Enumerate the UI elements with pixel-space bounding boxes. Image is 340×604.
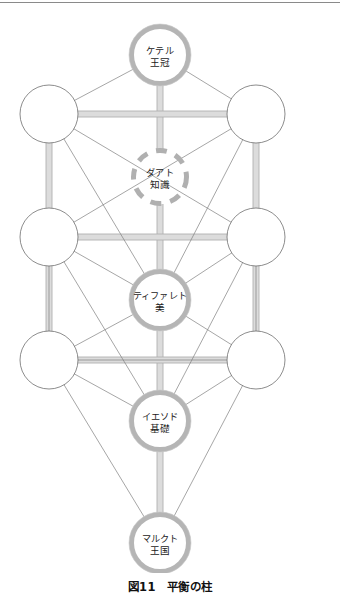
- thin-edge: [74, 69, 134, 101]
- sephirah-label-keter-name: ケテル: [146, 45, 174, 56]
- sephirah-label-malkuth-name: マルクト: [142, 533, 179, 544]
- thin-edge: [185, 375, 232, 405]
- sephirah-label-keter-meaning: 王冠: [150, 57, 170, 68]
- sephirah-label-tiphareth-name: ティファレト: [133, 290, 187, 301]
- page-top-rule: [0, 2, 340, 3]
- thin-edge: [186, 71, 233, 100]
- sephirah-node-geburah[interactable]: [227, 208, 285, 266]
- sephirah-node-netzach[interactable]: [20, 331, 78, 389]
- sephirah-node-chesed[interactable]: [20, 208, 78, 266]
- pillar-edge: [76, 111, 229, 117]
- sephirah-label-tiphareth-meaning: 美: [155, 302, 165, 313]
- sephirah-label-daath-name: ダアト: [146, 167, 174, 178]
- thin-edge: [185, 252, 233, 283]
- pillar-edge: [157, 450, 163, 514]
- tree-of-life-diagram: ケテル王冠ダアト知識ティファレト美イエソド基礎マルクト王国: [0, 8, 340, 573]
- pillar-edge: [253, 141, 259, 210]
- sephirah-node-binah[interactable]: [227, 85, 285, 143]
- sephirah-node-daath[interactable]: ダアト知識: [134, 151, 187, 204]
- sephirah-node-chokmah[interactable]: [20, 85, 78, 143]
- sephirah-label-yesod-meaning: 基礎: [150, 423, 170, 434]
- sephirah-node-yesod[interactable]: イエソド基礎: [129, 390, 191, 452]
- sephirah-label-daath-meaning: 知識: [150, 179, 170, 190]
- thin-edge: [74, 373, 134, 406]
- sephirah-node-keter[interactable]: ケテル王冠: [129, 24, 191, 86]
- pillar-edge: [76, 234, 229, 240]
- thin-edge: [63, 138, 144, 274]
- figure-page: ケテル王冠ダアト知識ティファレト美イエソド基礎マルクト王国 図11 平衡の柱: [0, 0, 340, 604]
- sephirah-node-tiphareth[interactable]: ティファレト美: [129, 269, 191, 331]
- thin-edge: [73, 251, 134, 285]
- pillar-edge: [46, 141, 52, 210]
- thin-edge: [185, 316, 232, 345]
- thin-edge: [64, 384, 145, 517]
- figure-caption: 図11 平衡の柱: [0, 578, 340, 594]
- node-layer: ケテル王冠ダアト知識ティファレト美イエソド基礎マルクト王国: [20, 24, 285, 573]
- sephirah-label-yesod-name: イエソド: [142, 411, 179, 422]
- sephirah-node-malkuth[interactable]: マルクト王国: [129, 512, 191, 573]
- thin-edge: [63, 261, 144, 395]
- sephirah-node-hod[interactable]: [227, 331, 285, 389]
- sephirah-label-malkuth-meaning: 王国: [150, 545, 170, 556]
- thin-edge: [74, 314, 134, 346]
